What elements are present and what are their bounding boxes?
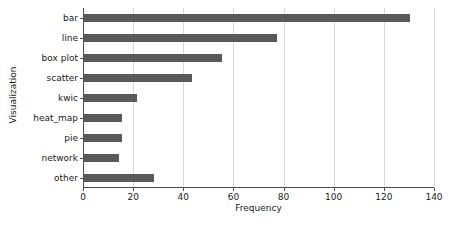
x-axis-tick-label: 100: [325, 192, 342, 202]
y-axis-tick-label: bar: [63, 13, 78, 23]
bar: [84, 94, 137, 102]
y-axis-title: Visualization: [2, 0, 24, 190]
x-axis-tick-label: 120: [375, 192, 392, 202]
plot-area: barlinebox plotscatterkwicheat_mappienet…: [83, 8, 434, 188]
y-axis-tick-label: heat_map: [33, 113, 78, 123]
gridline: [334, 8, 335, 188]
x-axis-tick-label: 80: [278, 192, 289, 202]
x-axis-tick-label: 140: [425, 192, 442, 202]
x-axis-tick-label: 20: [127, 192, 138, 202]
y-axis-tick-label: other: [54, 173, 78, 183]
x-axis-tick-mark: [284, 188, 285, 191]
gridline: [384, 8, 385, 188]
x-axis-tick-mark: [183, 188, 184, 191]
x-axis-tick-label: 60: [228, 192, 239, 202]
bar: [84, 154, 119, 162]
y-axis-tick-label: line: [62, 33, 78, 43]
bar-chart-figure: Visualization barlinebox plotscatterkwic…: [0, 0, 458, 229]
y-axis-spine: [83, 8, 84, 188]
x-axis-tick-mark: [334, 188, 335, 191]
bar: [84, 74, 192, 82]
bar: [84, 34, 277, 42]
bar: [84, 14, 410, 22]
x-axis-spine: [83, 187, 434, 188]
x-axis-tick-mark: [83, 188, 84, 191]
y-axis-tick-label: kwic: [58, 93, 78, 103]
gridline: [434, 8, 435, 188]
bar: [84, 134, 122, 142]
x-axis-tick-label: 40: [178, 192, 189, 202]
y-axis-tick-label: pie: [64, 133, 78, 143]
y-axis-tick-label: network: [41, 153, 78, 163]
x-axis-tick-mark: [233, 188, 234, 191]
x-axis-tick-mark: [384, 188, 385, 191]
y-axis-tick-label: box plot: [42, 53, 78, 63]
gridline: [284, 8, 285, 188]
bar: [84, 114, 122, 122]
x-axis-title: Frequency: [83, 203, 434, 213]
bar: [84, 174, 154, 182]
x-axis-tick-mark: [434, 188, 435, 191]
bar: [84, 54, 222, 62]
y-axis-title-text: Visualization: [8, 67, 18, 124]
x-axis-tick-label: 0: [80, 192, 86, 202]
y-axis-tick-label: scatter: [47, 73, 78, 83]
x-axis-tick-mark: [133, 188, 134, 191]
